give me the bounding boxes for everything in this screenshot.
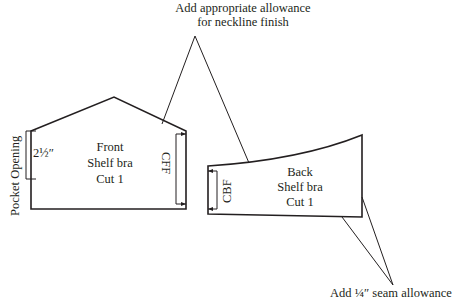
back-label-line2: Shelf bra xyxy=(250,180,350,194)
neckline-callout-line2: for neckline finish xyxy=(148,15,338,29)
back-label-line3: Cut 1 xyxy=(250,195,350,209)
front-label-line1: Front xyxy=(60,140,160,154)
cbf-fold-bracket xyxy=(208,171,217,209)
back-label-line1: Back xyxy=(250,165,350,179)
cff-label: CFF xyxy=(158,152,173,174)
cbf-label: CBF xyxy=(220,179,235,203)
cff-fold-bracket xyxy=(176,134,186,204)
pocket-opening-label: Pocket Opening xyxy=(8,136,23,216)
front-label-line3: Cut 1 xyxy=(60,172,160,186)
seam-callout-leader xyxy=(342,197,393,285)
pocket-measure: 2½″ xyxy=(33,146,54,160)
neckline-callout-line1: Add appropriate allowance xyxy=(148,1,338,15)
front-label-line2: Shelf bra xyxy=(60,156,160,170)
seam-callout: Add ¼″ seam allowance xyxy=(330,286,452,300)
neckline-callout-leader xyxy=(162,36,249,163)
